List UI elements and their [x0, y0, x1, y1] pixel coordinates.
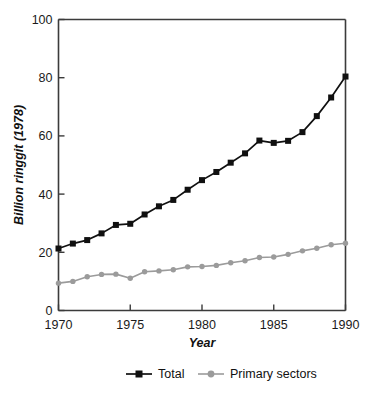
data-point-primary-sectors — [85, 274, 90, 279]
legend-marker-primary — [208, 371, 215, 378]
data-point-primary-sectors — [271, 254, 276, 259]
y-tick-label: 80 — [39, 71, 53, 85]
data-point-total — [242, 150, 248, 156]
data-point-total — [299, 129, 305, 135]
data-point-total — [213, 169, 219, 175]
data-point-primary-sectors — [128, 275, 133, 280]
y-tick-label: 100 — [32, 13, 53, 27]
data-point-total — [343, 74, 349, 80]
x-tick-label: 1980 — [188, 318, 216, 332]
data-point-primary-sectors — [314, 246, 319, 251]
data-point-total — [70, 241, 76, 247]
legend-marker-total — [136, 371, 143, 378]
data-point-primary-sectors — [300, 248, 305, 253]
data-point-primary-sectors — [228, 260, 233, 265]
data-point-primary-sectors — [113, 271, 118, 276]
y-tick-label: 60 — [39, 129, 53, 143]
series-line-total — [59, 77, 346, 249]
x-tick-label: 1970 — [45, 318, 73, 332]
legend-label-primary-sectors: Primary sectors — [230, 367, 317, 381]
data-point-total — [271, 140, 277, 146]
data-point-total — [170, 197, 176, 203]
x-tick-label: 1985 — [260, 318, 288, 332]
y-tick-label: 40 — [39, 188, 53, 202]
y-axis-ticks: 020406080100 — [32, 13, 65, 318]
data-point-primary-sectors — [285, 252, 290, 257]
legend-label-total: Total — [158, 367, 184, 381]
series-group — [56, 74, 349, 286]
data-point-total — [127, 221, 133, 227]
data-point-primary-sectors — [328, 242, 333, 247]
data-point-primary-sectors — [171, 267, 176, 272]
data-point-total — [113, 222, 119, 228]
data-point-total — [56, 246, 62, 252]
data-point-primary-sectors — [56, 280, 61, 285]
data-point-total — [328, 94, 334, 100]
data-point-primary-sectors — [156, 268, 161, 273]
data-point-primary-sectors — [343, 241, 348, 246]
data-point-total — [142, 211, 148, 217]
data-point-total — [84, 237, 90, 243]
line-chart: 020406080100 19701975198019851990 Billio… — [0, 0, 376, 393]
data-point-total — [185, 187, 191, 193]
legend-item-total: Total — [126, 367, 184, 381]
data-point-total — [285, 138, 291, 144]
legend-item-primary-sectors: Primary sectors — [198, 367, 317, 381]
data-point-total — [228, 160, 234, 166]
data-point-primary-sectors — [70, 279, 75, 284]
x-tick-label: 1990 — [332, 318, 360, 332]
data-point-primary-sectors — [242, 258, 247, 263]
y-tick-label: 0 — [46, 304, 53, 318]
data-point-primary-sectors — [257, 255, 262, 260]
data-point-total — [199, 177, 205, 183]
x-axis-ticks: 19701975198019851990 — [45, 305, 360, 332]
x-tick-label: 1975 — [116, 318, 144, 332]
y-axis-title: Billion ringgit (1978) — [12, 105, 26, 225]
data-point-primary-sectors — [214, 263, 219, 268]
y-tick-label: 20 — [39, 246, 53, 260]
chart-legend: Total Primary sectors — [126, 367, 317, 381]
chart-container: 020406080100 19701975198019851990 Billio… — [0, 0, 376, 393]
data-point-total — [314, 113, 320, 119]
data-point-primary-sectors — [99, 272, 104, 277]
x-axis-title: Year — [189, 336, 217, 350]
data-point-primary-sectors — [142, 269, 147, 274]
data-point-primary-sectors — [199, 264, 204, 269]
data-point-total — [156, 203, 162, 209]
data-point-total — [99, 230, 105, 236]
data-point-primary-sectors — [185, 264, 190, 269]
data-point-total — [256, 138, 262, 144]
